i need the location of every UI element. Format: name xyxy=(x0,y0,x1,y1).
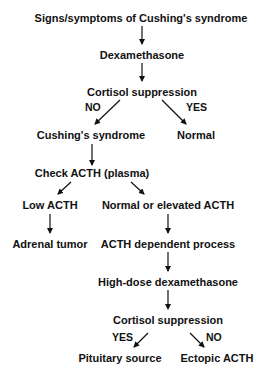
arrow-suppression2-yes xyxy=(134,333,148,347)
node-dexamethasone: Dexamethasone xyxy=(100,49,184,62)
arrow-suppression2-no xyxy=(190,333,204,347)
node-cortisol-suppression-2: Cortisol suppression xyxy=(113,314,223,327)
arrow-check-to-normal-elevated xyxy=(131,182,144,194)
node-cushings-syndrome: Cushing's syndrome xyxy=(37,129,145,142)
edge-label-no-1: NO xyxy=(85,101,101,113)
node-high-dose-dexamethasone: High-dose dexamethasone xyxy=(98,276,238,289)
node-acth-dependent: ACTH dependent process xyxy=(101,238,235,251)
node-adrenal-tumor: Adrenal tumor xyxy=(12,238,87,251)
node-normal-elevated-acth: Normal or elevated ACTH xyxy=(102,199,234,212)
node-pituitary-source: Pituitary source xyxy=(78,352,161,365)
node-ectopic-acth: Ectopic ACTH xyxy=(181,352,254,365)
edge-label-yes-2: YES xyxy=(112,331,133,343)
node-check-acth: Check ACTH (plasma) xyxy=(35,167,150,180)
arrow-check-to-low xyxy=(58,182,71,194)
node-low-acth: Low ACTH xyxy=(22,199,77,212)
node-cortisol-suppression-1: Cortisol suppression xyxy=(87,86,197,99)
node-normal: Normal xyxy=(177,129,215,142)
edge-label-yes-1: YES xyxy=(186,101,207,113)
arrow-suppression-yes xyxy=(162,100,186,124)
edge-label-no-2: NO xyxy=(206,331,222,343)
node-start: Signs/symptoms of Cushing's syndrome xyxy=(35,12,248,25)
